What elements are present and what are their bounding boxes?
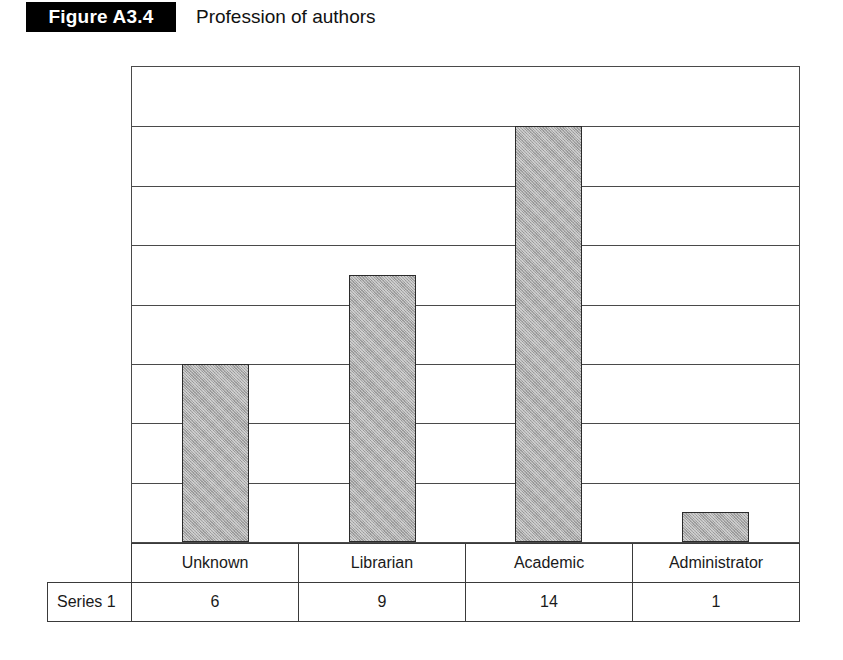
table-value-cell: 6 (132, 583, 299, 622)
chart-bar (515, 126, 582, 542)
chart-gridline (132, 305, 799, 306)
chart-bar (182, 364, 249, 542)
table-series-label: Series 1 (48, 583, 132, 622)
table-value-cell: 1 (633, 583, 800, 622)
chart-gridline (132, 245, 799, 246)
bar-chart-figure: Unknown Librarian Academic Administrator… (0, 0, 843, 660)
table-value-cell: 9 (299, 583, 466, 622)
table-value-cell: 14 (466, 583, 633, 622)
table-row-categories: Unknown Librarian Academic Administrator (48, 544, 800, 583)
table-header-cell: Librarian (299, 544, 466, 583)
chart-data-table: Unknown Librarian Academic Administrator… (47, 543, 800, 622)
chart-gridline (132, 126, 799, 127)
chart-gridline (132, 186, 799, 187)
chart-plot-area (131, 66, 800, 543)
chart-bar (349, 275, 416, 542)
table-header-cell: Unknown (132, 544, 299, 583)
table-header-cell: Academic (466, 544, 633, 583)
table-header-cell: Administrator (633, 544, 800, 583)
table-row-series-values: Series 1 6 9 14 1 (48, 583, 800, 622)
chart-bar (682, 512, 749, 542)
table-corner-blank (48, 544, 132, 583)
